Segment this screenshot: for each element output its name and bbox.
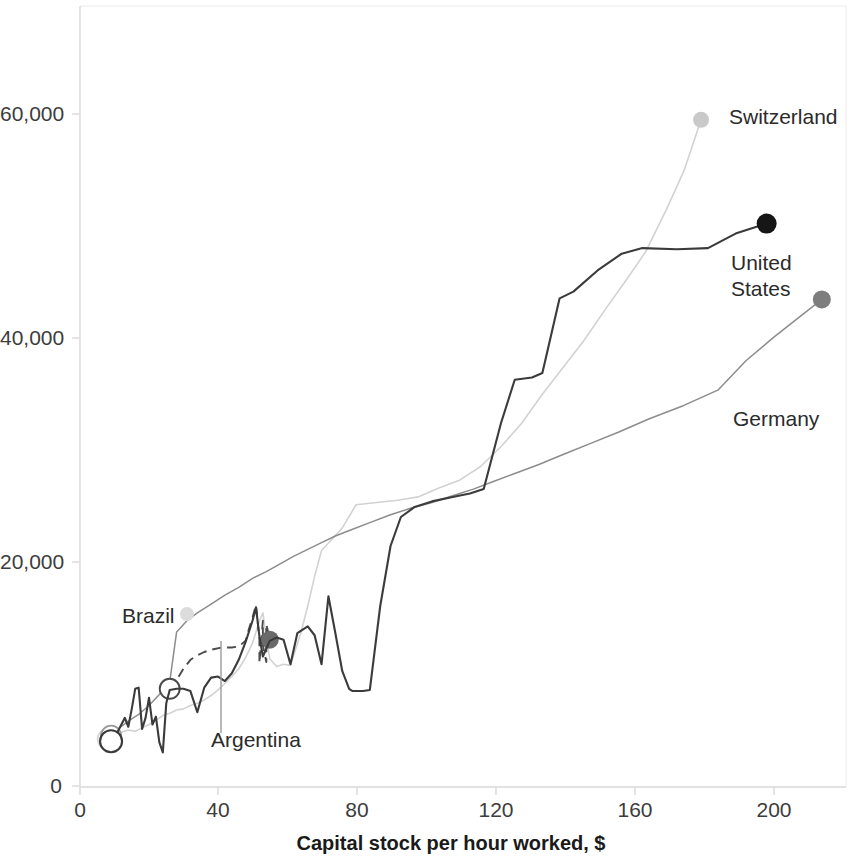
series-label-germany: Germany: [733, 406, 819, 432]
x-tick-label-0: 0: [50, 798, 110, 822]
series-label-switzerland: Switzerland: [729, 104, 838, 130]
x-tick-label-120: 120: [466, 798, 526, 822]
series-label-argentina: Argentina: [211, 727, 301, 753]
y-axis-ticks: [72, 114, 80, 786]
x-tick-label-40: 40: [188, 798, 248, 822]
x-axis-title: Capital stock per hour worked, $: [176, 832, 726, 855]
series-united-states: [100, 214, 777, 753]
series-switzerland: [98, 112, 709, 749]
x-tick-label-80: 80: [327, 798, 387, 822]
series-label-united-states-line2: States: [731, 276, 792, 302]
y-tick-label-0: 0: [0, 774, 62, 798]
brazil-label-marker: [180, 607, 194, 621]
y-tick-label-60000: 60,000: [0, 102, 62, 126]
series-end-marker-germany: [813, 290, 831, 308]
series-label-united-states: United States: [731, 250, 792, 302]
series-label-united-states-line1: United: [731, 250, 792, 276]
x-axis-ticks: [80, 787, 774, 795]
x-tick-label-160: 160: [605, 798, 665, 822]
series-end-marker-switzerland: [693, 112, 709, 128]
chart-container: 0 20,000 40,000 60,000 0 40 80 120 160 2…: [0, 0, 852, 861]
chart-plot-area: [0, 0, 852, 861]
series-label-brazil: Brazil: [122, 603, 175, 629]
series-start-marker-united-states: [100, 730, 122, 752]
y-tick-label-20000: 20,000: [0, 550, 62, 574]
x-tick-label-200: 200: [744, 798, 804, 822]
y-tick-label-40000: 40,000: [0, 326, 62, 350]
series-end-marker-united-states: [757, 214, 777, 234]
